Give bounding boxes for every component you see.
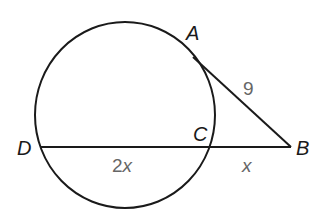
measure-cb: x bbox=[241, 155, 253, 176]
measure-dc: 2x bbox=[112, 155, 134, 176]
circle bbox=[35, 22, 215, 208]
point-label-a: A bbox=[185, 22, 199, 44]
point-label-d: D bbox=[17, 137, 31, 159]
geometry-diagram: A B C D 9 2x x bbox=[0, 0, 310, 222]
tangent-segment-ab bbox=[193, 57, 291, 147]
point-label-c: C bbox=[193, 123, 208, 145]
measure-ab: 9 bbox=[243, 78, 254, 99]
point-label-b: B bbox=[296, 137, 309, 159]
